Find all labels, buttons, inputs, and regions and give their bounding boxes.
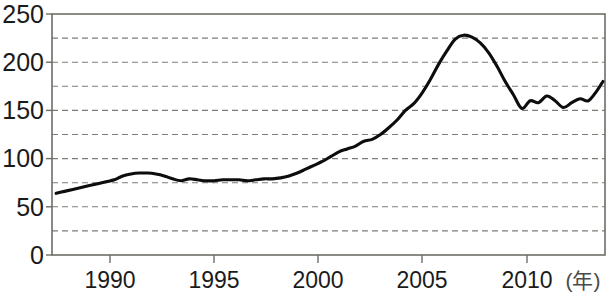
- line-chart: 250 200 150 100 50 0 1990 1995 2000 2005…: [0, 0, 614, 295]
- xtick-label-1990: 1990: [84, 267, 135, 293]
- x-axis-unit-label: (年): [566, 269, 601, 292]
- x-axis-ticks: [110, 255, 527, 263]
- ytick-label-150: 150: [2, 96, 44, 124]
- x-axis-labels: 1990 1995 2000 2005 2010 (年): [84, 267, 600, 293]
- ytick-label-200: 200: [2, 48, 44, 76]
- gridlines: [52, 38, 605, 231]
- ytick-label-0: 0: [30, 241, 44, 269]
- ytick-label-100: 100: [2, 144, 44, 172]
- xtick-label-1995: 1995: [188, 267, 239, 293]
- y-axis-labels: 250 200 150 100 50 0: [2, 0, 44, 269]
- data-series-line: [56, 35, 603, 193]
- ytick-label-50: 50: [16, 193, 44, 221]
- xtick-label-2000: 2000: [292, 267, 343, 293]
- y-axis-ticks: [46, 14, 52, 255]
- xtick-label-2005: 2005: [396, 267, 447, 293]
- xtick-label-2010: 2010: [501, 267, 552, 293]
- ytick-label-250: 250: [2, 0, 44, 28]
- chart-canvas: 250 200 150 100 50 0 1990 1995 2000 2005…: [0, 0, 614, 295]
